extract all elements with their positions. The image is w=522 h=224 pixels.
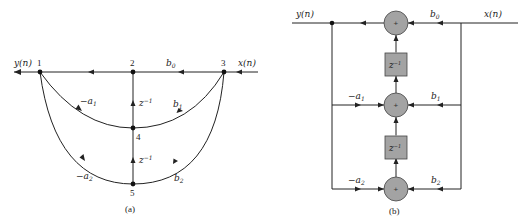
a1-label-b: −a1 — [348, 91, 365, 102]
a2-arrow-icon — [355, 187, 361, 192]
a2-arrow-icon — [80, 154, 86, 161]
a2-into-adder-arrow-icon — [378, 187, 384, 192]
output-arrow-icon — [14, 69, 21, 75]
b1-label-b: b1 — [431, 91, 441, 102]
node-2 — [131, 70, 136, 75]
delay2-label-a: z−1 — [138, 154, 153, 165]
node-4-label: 4 — [136, 132, 141, 142]
b2-arrow-icon — [173, 159, 178, 165]
into-delay1-arrow-icon — [394, 76, 399, 82]
b1-into-adder-arrow-icon — [408, 103, 414, 108]
input-arrow-icon — [236, 70, 242, 75]
output-label-a: y(n) — [13, 58, 32, 68]
b1-arrow-icon — [437, 103, 443, 108]
caption-a: (a) — [125, 204, 135, 214]
adder-middle: + — [384, 93, 408, 117]
output-arrow-icon — [360, 21, 366, 26]
output-label-b: y(n) — [295, 9, 314, 19]
b2-branch-curve — [133, 72, 224, 184]
a1-label-a: −a1 — [80, 96, 97, 107]
signal-flow-graph-a: 1 2 3 4 5 y(n) x(n) b0 b1 b2 −a1 −a2 z−1… — [13, 58, 258, 214]
input-label-a: x(n) — [238, 58, 256, 68]
input-label-b: x(n) — [484, 9, 502, 19]
b0-arrow-icon — [437, 21, 443, 26]
into-adder1-arrow-icon — [394, 35, 399, 41]
a1-into-adder-arrow-icon — [378, 103, 384, 108]
b2-label-a: b2 — [174, 173, 184, 184]
node-5-label: 5 — [130, 188, 135, 198]
diagram-canvas: 1 2 3 4 5 y(n) x(n) b0 b1 b2 −a1 −a2 z−1… — [0, 0, 522, 224]
delay1-arrow-icon — [131, 100, 136, 106]
plus-icon: + — [394, 101, 399, 110]
delay2-arrow-icon — [131, 157, 136, 163]
delay-block-1: z−1 — [385, 53, 407, 76]
output-junction-node — [330, 21, 335, 26]
node-1-label: 1 — [37, 58, 42, 68]
adder-top: + — [384, 11, 408, 35]
node-4 — [131, 126, 136, 131]
node-2-label: 2 — [130, 58, 135, 68]
node-3-label: 3 — [221, 58, 226, 68]
plus-icon: + — [394, 19, 399, 28]
into-adder2-arrow-icon — [394, 117, 399, 123]
delay1-label-a: z−1 — [138, 97, 153, 108]
a1-arrow-icon — [355, 103, 361, 108]
b0-label-b: b0 — [430, 9, 440, 20]
caption-b: (b) — [389, 206, 400, 216]
b0-label-a: b0 — [166, 58, 176, 69]
adder-bottom: + — [384, 177, 408, 201]
b2-label-b: b2 — [431, 175, 441, 186]
b2-arrow-icon — [437, 187, 443, 192]
node-1 — [38, 70, 43, 75]
plus-icon: + — [394, 185, 399, 194]
b0-into-adder-arrow-icon — [408, 21, 414, 26]
node-3 — [222, 70, 227, 75]
b1-label-a: b1 — [173, 99, 183, 110]
block-diagram-b: + + + z−1 z−1 y(n) x(n) b0 b1 b2 −a1 −a2… — [292, 9, 518, 216]
arrow-icon — [88, 70, 94, 75]
node-5 — [131, 182, 136, 187]
b0-arrow-icon — [178, 70, 184, 75]
a2-label-b: −a2 — [348, 175, 365, 186]
b2-into-adder-arrow-icon — [408, 187, 414, 192]
delay-block-2: z−1 — [385, 136, 407, 159]
